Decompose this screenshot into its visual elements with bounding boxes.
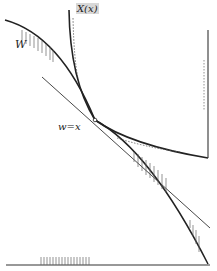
diagram-canvas	[0, 0, 217, 271]
label-w: W	[15, 38, 26, 51]
curve-x	[69, 10, 95, 120]
curve-lower-right	[95, 120, 208, 264]
tangent-line	[42, 77, 210, 228]
intersection-point	[93, 118, 97, 122]
curve-w	[5, 20, 95, 120]
baseline-hatching	[41, 257, 89, 265]
curve-upper-right	[95, 120, 208, 158]
lower-hatching	[134, 152, 199, 252]
label-w-equals-x: w=x	[58, 121, 81, 132]
label-x-of-x: X(x)	[76, 3, 99, 14]
